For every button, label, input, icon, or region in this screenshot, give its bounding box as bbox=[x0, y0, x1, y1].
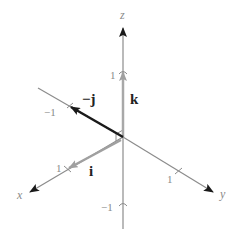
coordinate-diagram: z 1 −1 y 1 −1 x 1 k −j i bbox=[0, 0, 247, 229]
vector-k: k bbox=[123, 72, 139, 137]
vector-i: i bbox=[69, 140, 121, 179]
z-tick-label-neg: −1 bbox=[101, 201, 113, 213]
z-axis-label: z bbox=[119, 8, 125, 22]
neg-y-tick-label: −1 bbox=[44, 106, 56, 118]
x-axis-label: x bbox=[16, 188, 23, 202]
vector-neg-j: −j bbox=[71, 91, 123, 137]
y-axis-label: y bbox=[219, 187, 226, 201]
y-tick-label-pos: 1 bbox=[167, 173, 173, 185]
vector-k-label: k bbox=[130, 91, 139, 107]
z-tick-label-pos: 1 bbox=[110, 69, 116, 81]
vector-neg-j-label: −j bbox=[82, 91, 96, 107]
x-tick-label-pos: 1 bbox=[56, 162, 62, 174]
vector-i-label: i bbox=[89, 163, 93, 179]
